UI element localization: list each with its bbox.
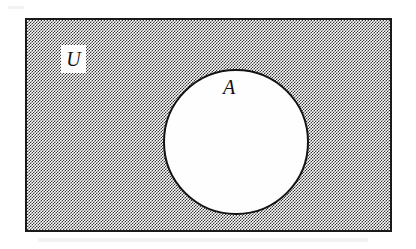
venn-diagram-figure: U A — [0, 0, 416, 249]
set-a-label: A — [223, 77, 235, 97]
universal-set-label: U — [61, 45, 86, 73]
scan-artifact-bottom — [38, 238, 368, 242]
scan-artifact-top — [8, 6, 24, 9]
universal-set-rectangle: U A — [25, 18, 392, 232]
set-a-circle — [163, 69, 309, 215]
